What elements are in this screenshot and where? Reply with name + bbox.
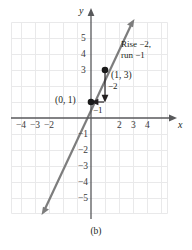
y-tick-label--3: −3: [78, 162, 88, 172]
y-tick-label-4: 4: [81, 50, 86, 60]
y-tick-label-3: 3: [81, 66, 86, 76]
rise-arrowhead: [102, 95, 109, 103]
point-label-0-1: (0, 1): [55, 96, 76, 106]
rise-value-label: −2: [108, 81, 118, 91]
y-tick-label--2: −2: [78, 146, 88, 156]
figure-caption: (b): [0, 226, 192, 236]
annotation-rise: Rise −2,: [121, 39, 151, 49]
y-axis-arrowhead: [88, 8, 95, 16]
x-tick-label-2: 2: [117, 121, 122, 131]
x-tick-label--4: −4: [16, 121, 26, 131]
point-1-3: [102, 67, 109, 74]
x-axis-arrowhead: [169, 115, 177, 122]
point-label-1-3: (1, 3): [111, 71, 132, 81]
x-tick-label--2: −2: [44, 121, 54, 131]
annotation-run: run −1: [121, 50, 145, 60]
y-tick-label-5: 5: [81, 34, 86, 44]
y-tick-label--5: −5: [78, 194, 88, 204]
x-tick-label--3: −3: [30, 121, 40, 131]
x-tick-label-4: 4: [145, 121, 150, 131]
y-tick-label--4: −4: [78, 178, 88, 188]
graph-figure: y x −4 −3 −2 2 3 4 5 4 3 −1 −2 −3 −4 −5 …: [0, 0, 192, 250]
coordinate-plane: [0, 0, 192, 250]
run-value-label: −1: [93, 105, 103, 115]
y-axis-label: y: [79, 6, 83, 16]
y-tick-label--1: −1: [78, 130, 88, 140]
x-tick-label-3: 3: [131, 121, 136, 131]
x-axis-label: x: [178, 120, 182, 130]
